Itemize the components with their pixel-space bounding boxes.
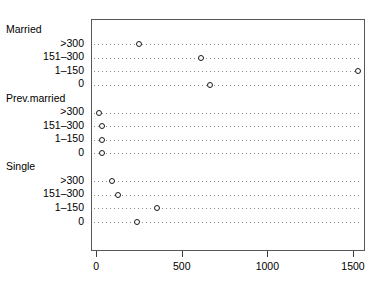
data-point: [134, 219, 140, 225]
data-point: [355, 68, 361, 74]
x-axis: 050010001500: [91, 251, 365, 300]
data-point: [207, 82, 213, 88]
category-label: 151–300: [43, 51, 84, 62]
category-label: 0: [78, 78, 84, 89]
category-axis-labels: Married>300151–3001–1500Prev.married>300…: [0, 0, 90, 300]
category-label: 151–300: [43, 188, 84, 199]
category-label: 0: [78, 147, 84, 158]
gridline: [94, 208, 362, 209]
category-label: 151–300: [43, 120, 84, 131]
gridline: [94, 58, 362, 59]
x-axis-tick-label: 1500: [341, 260, 364, 272]
category-label: >300: [60, 106, 84, 117]
x-axis-tick: [96, 251, 97, 257]
data-point: [198, 55, 204, 61]
category-label: 0: [78, 216, 84, 227]
gridline: [94, 126, 362, 127]
x-axis-tick: [353, 251, 354, 257]
data-point: [99, 123, 105, 129]
gridline: [94, 181, 362, 182]
x-axis-tick: [182, 251, 183, 257]
data-point: [154, 205, 160, 211]
plot-panel: [91, 19, 365, 251]
gridline: [94, 140, 362, 141]
data-point: [99, 137, 105, 143]
group-label: Married: [6, 24, 42, 35]
category-label: >300: [60, 175, 84, 186]
data-point: [99, 150, 105, 156]
group-label: Prev.married: [6, 93, 65, 104]
gridline: [94, 113, 362, 114]
x-axis-tick-label: 0: [93, 260, 99, 272]
data-point: [115, 192, 121, 198]
data-point: [109, 178, 115, 184]
category-label: 1–150: [55, 133, 84, 144]
data-point: [136, 41, 142, 47]
x-axis-tick-label: 500: [173, 260, 191, 272]
gridline: [94, 195, 362, 196]
gridline: [94, 44, 362, 45]
gridline: [94, 153, 362, 154]
category-label: 1–150: [55, 65, 84, 76]
category-label: 1–150: [55, 202, 84, 213]
dot-plot-chart: Married>300151–3001–1500Prev.married>300…: [0, 0, 385, 300]
gridline: [94, 85, 362, 86]
category-label: >300: [60, 38, 84, 49]
x-axis-tick-label: 1000: [256, 260, 279, 272]
group-label: Single: [6, 161, 35, 172]
gridline: [94, 71, 362, 72]
x-axis-tick: [267, 251, 268, 257]
data-point: [96, 110, 102, 116]
